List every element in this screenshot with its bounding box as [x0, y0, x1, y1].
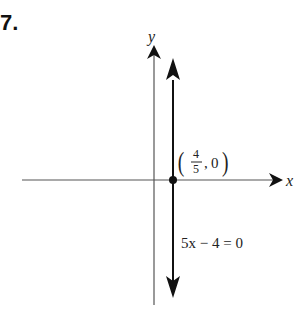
point-label: ( 4 5 , 0 ): [178, 146, 229, 178]
equation-label: 5x − 4 = 0: [181, 235, 243, 251]
x-axis-label: x: [285, 172, 293, 189]
svg-text:,: ,: [204, 155, 208, 171]
intercept-point: [169, 176, 177, 184]
point-y-value: 0: [211, 155, 219, 171]
y-axis-label: y: [146, 28, 156, 46]
fraction-numerator: 4: [193, 147, 199, 161]
fraction-denominator: 5: [193, 162, 199, 176]
graph: y x ( 4 5 , 0 ) 5x − 4 = 0: [0, 0, 306, 321]
svg-text:(: (: [178, 146, 185, 178]
svg-text:): ): [222, 146, 229, 178]
line-arrow-up: [166, 58, 180, 80]
